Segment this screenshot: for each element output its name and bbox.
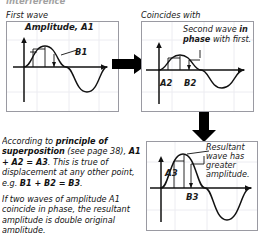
caption-first-wave: First wave bbox=[6, 10, 48, 20]
label-b2: B2 bbox=[184, 78, 196, 88]
note-second-wave-line2: phase with first. bbox=[183, 34, 251, 44]
first-wave-graph bbox=[7, 22, 118, 111]
caption-coincides-with: Coincides with bbox=[141, 10, 200, 20]
prose-double-amplitude: If two waves of amplitude A1 coincide in… bbox=[2, 194, 142, 233]
prose1-t1: According to bbox=[2, 136, 56, 146]
note-resultant-line4: amplitude. bbox=[206, 170, 249, 180]
y-axis-arrowhead bbox=[156, 42, 162, 48]
prose1-t4: . bbox=[80, 178, 83, 188]
displacement-marker-b2 bbox=[189, 50, 200, 70]
prose1-t2: (see page 38), bbox=[65, 146, 129, 156]
axes bbox=[146, 44, 244, 104]
note-text-d: with first. bbox=[210, 34, 251, 44]
note-text-a: Second wave bbox=[183, 24, 239, 34]
label-a3: A3 bbox=[165, 168, 178, 178]
down-block-arrow bbox=[192, 112, 216, 142]
label-b1: B1 bbox=[75, 47, 87, 57]
wave-curve bbox=[24, 46, 107, 92]
label-b3: B3 bbox=[186, 192, 199, 202]
figure-root: interference First wave bbox=[0, 0, 260, 233]
displacement-marker-b3 bbox=[191, 156, 204, 188]
note-text-c: phase bbox=[183, 34, 210, 44]
note-second-wave-line1: Second wave in bbox=[183, 24, 248, 34]
note-text-b: in bbox=[239, 24, 248, 34]
y-axis-arrowhead bbox=[158, 156, 164, 162]
panel-first-wave bbox=[6, 21, 119, 112]
prose-superposition: According to principle of superposition … bbox=[2, 136, 142, 188]
label-a2: A2 bbox=[160, 78, 172, 88]
clipped-heading: interference bbox=[6, 0, 156, 5]
label-amplitude-a1: Amplitude, A1 bbox=[25, 22, 94, 32]
amplitude-measure-a2 bbox=[168, 56, 180, 70]
axes bbox=[13, 39, 107, 102]
prose1-b3: B1 + B2 = B3 bbox=[20, 178, 80, 188]
